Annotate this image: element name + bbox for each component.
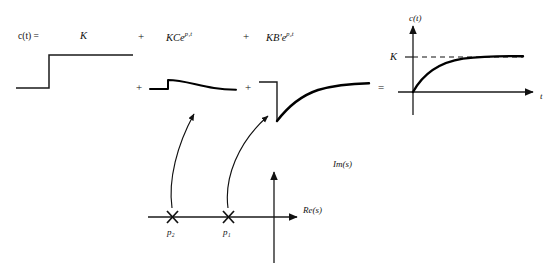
arrow-pole-p2-to-mode-1 (171, 114, 194, 208)
waveform-mode-2-response (259, 82, 369, 121)
figure-vector-layer (0, 0, 560, 263)
result-response-curve (413, 56, 523, 92)
splane-plot (148, 172, 297, 263)
figure-canvas: c(t) = K + KCep₁t + KB'ep₂t + + = c(t) t… (0, 0, 560, 263)
waveform-mode-1-response (150, 80, 236, 90)
result-plot (398, 26, 533, 115)
waveform-step-response (16, 55, 133, 88)
mapping-arrows (171, 114, 268, 208)
arrow-pole-p1-to-mode-2 (227, 116, 268, 208)
